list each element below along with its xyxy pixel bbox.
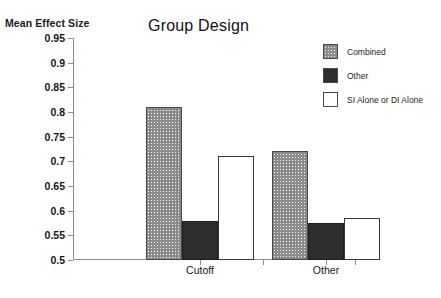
legend-swatch-icon: [323, 68, 338, 83]
bar-other-other: [308, 223, 344, 260]
y-axis-tick: [68, 87, 73, 88]
x-axis-category-label: Cutoff: [186, 264, 214, 276]
bar-other-si-alone-or-di-alone: [344, 218, 380, 260]
y-axis-tick-label: 0.55: [45, 229, 65, 241]
legend-label: SI Alone or DI Alone: [347, 95, 423, 105]
legend-item: Combined: [323, 44, 438, 59]
y-axis-tick-label: 0.85: [45, 81, 65, 93]
y-axis-tick: [68, 137, 73, 138]
y-axis-tick: [68, 235, 73, 236]
y-axis-tick: [68, 63, 73, 64]
y-axis-tick-label: 0.65: [45, 180, 65, 192]
legend-swatch-icon: [323, 44, 338, 59]
plot-area: 0.50.550.60.650.70.750.80.850.90.95 Cuto…: [73, 38, 356, 260]
legend: CombinedOtherSI Alone or DI Alone: [323, 44, 438, 116]
y-axis-tick-label: 0.95: [45, 32, 65, 44]
y-axis-tick: [68, 186, 73, 187]
y-axis-line: [73, 38, 74, 260]
x-axis-category-label: Other: [313, 264, 339, 276]
y-axis-tick-label: 0.6: [50, 205, 65, 217]
chart-title: Group Design: [148, 17, 249, 35]
y-axis-tick: [68, 112, 73, 113]
y-axis-tick-label: 0.8: [50, 106, 65, 118]
legend-label: Combined: [347, 47, 386, 57]
bar-cutoff-combined: [146, 107, 182, 260]
y-axis-tick: [68, 260, 73, 261]
y-axis-tick-label: 0.9: [50, 57, 65, 69]
legend-label: Other: [347, 71, 368, 81]
y-axis-tick-label: 0.7: [50, 155, 65, 167]
legend-item: Other: [323, 68, 438, 83]
y-axis-tick-label: 0.5: [50, 254, 65, 266]
x-axis-tick: [355, 260, 356, 265]
y-axis-tick: [68, 38, 73, 39]
y-axis-tick: [68, 211, 73, 212]
legend-item: SI Alone or DI Alone: [323, 92, 438, 107]
y-axis-title: Mean Effect Size: [5, 17, 89, 29]
x-axis-tick: [263, 260, 264, 265]
legend-swatch-icon: [323, 92, 338, 107]
y-axis-tick-label: 0.75: [45, 131, 65, 143]
bar-cutoff-si-alone-or-di-alone: [218, 156, 254, 260]
bar-other-combined: [272, 151, 308, 260]
bar-chart: Mean Effect Size Group Design 0.50.550.6…: [0, 0, 441, 298]
bar-cutoff-other: [182, 221, 218, 260]
y-axis-tick: [68, 161, 73, 162]
